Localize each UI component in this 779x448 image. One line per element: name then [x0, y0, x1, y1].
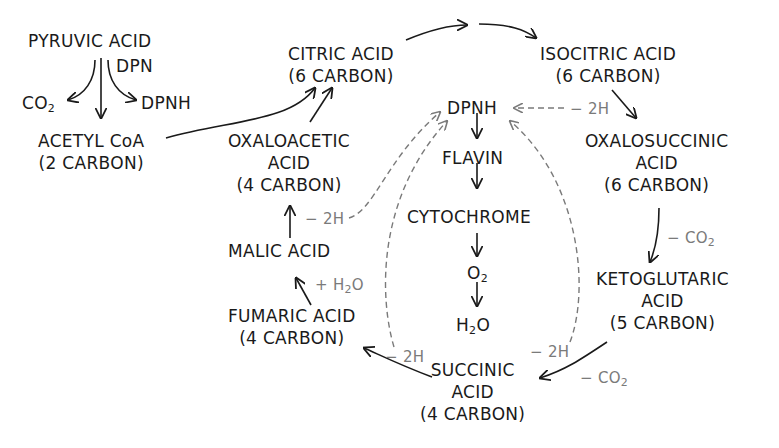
- annotation-minus-co2-ketoglutaric: − CO2: [580, 367, 628, 394]
- node-co2-released: CO2: [22, 92, 55, 120]
- node-water: H2O: [456, 314, 490, 342]
- node-malic-acid: MALIC ACID: [228, 240, 330, 262]
- annotation-minus-2h-fumaric: − 2H: [385, 346, 424, 368]
- annotation-plus-h2o: + H2O: [315, 274, 364, 301]
- node-dpnh-center: DPNH: [447, 97, 497, 119]
- node-pyruvic-acid: PYRUVIC ACID: [28, 30, 151, 52]
- node-isocitric-acid: ISOCITRIC ACID (6 CARBON): [540, 43, 676, 87]
- node-oxalosuccinic-acid: OXALOSUCCINIC ACID (6 CARBON): [585, 130, 728, 196]
- krebs-cycle-diagram: PYRUVIC ACID DPN CO2 DPNH ACETYL CoA (2 …: [0, 0, 779, 448]
- annotation-minus-2h-malic: − 2H: [305, 208, 344, 230]
- annotation-minus-2h-succinic: − 2H: [530, 341, 569, 363]
- node-dpnh-left: DPNH: [141, 92, 191, 114]
- node-fumaric-acid: FUMARIC ACID (4 CARBON): [228, 305, 356, 349]
- node-succinic-acid: SUCCINIC ACID (4 CARBON): [420, 359, 525, 425]
- node-dpn: DPN: [116, 55, 153, 77]
- node-flavin: FLAVIN: [442, 147, 503, 169]
- node-acetyl-coa: ACETYL CoA (2 CARBON): [38, 130, 145, 174]
- node-oxaloacetic-acid: OXALOACETIC ACID (4 CARBON): [228, 130, 350, 196]
- annotation-minus-2h-isocitric: − 2H: [570, 98, 609, 120]
- node-cytochrome: CYTOCHROME: [407, 206, 531, 228]
- node-ketoglutaric-acid: KETOGLUTARIC ACID (5 CARBON): [596, 268, 729, 334]
- node-oxygen: O2: [467, 262, 488, 290]
- node-citric-acid: CITRIC ACID (6 CARBON): [288, 43, 394, 87]
- annotation-minus-co2-oxalosuccinic: − CO2: [667, 227, 715, 254]
